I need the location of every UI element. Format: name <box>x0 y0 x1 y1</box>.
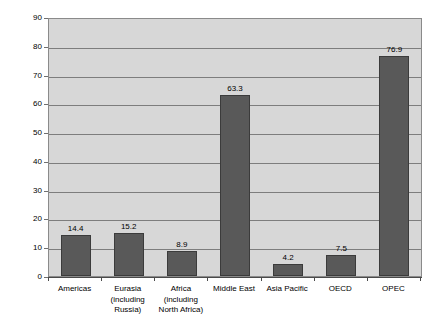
bar-value-label: 8.9 <box>176 240 187 249</box>
x-axis-label-line: Eurasia <box>101 284 154 295</box>
x-axis-label: Africa(includingNorth Africa) <box>154 284 207 316</box>
bar-slot: 15.2 <box>102 19 155 276</box>
bar[interactable] <box>61 235 91 276</box>
x-axis-line <box>48 277 422 278</box>
x-axis-label: Eurasia(includingRussia) <box>101 284 154 316</box>
x-axis-label-line: (including <box>154 295 207 306</box>
x-tick-mark <box>314 277 315 281</box>
bar-value-label: 63.3 <box>227 84 243 93</box>
x-axis-label-line: Russia) <box>101 305 154 316</box>
x-axis-label: Americas <box>48 284 101 295</box>
bar-value-label: 15.2 <box>121 222 137 231</box>
y-tick-mark-30 <box>44 191 48 192</box>
bar-slot: 63.3 <box>208 19 261 276</box>
x-tick-mark <box>101 277 102 281</box>
bar[interactable] <box>167 251 197 276</box>
y-tick-label-80: 80 <box>0 43 42 51</box>
y-tick-mark-70 <box>44 76 48 77</box>
bar-slot: 14.4 <box>49 19 102 276</box>
x-axis-label: Asia Pacific <box>261 284 314 295</box>
y-tick-label-20: 20 <box>0 215 42 223</box>
y-tick-label-30: 30 <box>0 187 42 195</box>
x-axis-label-line: Middle East <box>207 284 260 295</box>
x-tick-mark <box>48 277 49 281</box>
y-tick-mark-50 <box>44 133 48 134</box>
x-tick-mark <box>207 277 208 281</box>
y-tick-label-90: 90 <box>0 14 42 22</box>
y-tick-label-70: 70 <box>0 72 42 80</box>
bar[interactable] <box>326 255 356 276</box>
bar-value-label: 7.5 <box>336 244 347 253</box>
x-tick-mark <box>154 277 155 281</box>
bar[interactable] <box>273 264 303 276</box>
y-tick-mark-20 <box>44 219 48 220</box>
bar-chart-figure: Percentage of world reserves 01020304050… <box>0 0 437 330</box>
x-axis-label-line: Americas <box>48 284 101 295</box>
bar[interactable] <box>379 56 409 276</box>
y-tick-label-50: 50 <box>0 129 42 137</box>
x-axis-label-line: Asia Pacific <box>261 284 314 295</box>
x-axis-label-line: Africa <box>154 284 207 295</box>
x-axis-label-line: North Africa) <box>154 305 207 316</box>
bar[interactable] <box>220 95 250 276</box>
y-tick-mark-90 <box>44 18 48 19</box>
y-tick-label-60: 60 <box>0 100 42 108</box>
y-tick-mark-80 <box>44 47 48 48</box>
bar-slot: 4.2 <box>262 19 315 276</box>
bar-value-label: 76.9 <box>387 45 403 54</box>
bar-slot: 76.9 <box>368 19 421 276</box>
x-tick-mark <box>261 277 262 281</box>
bar-series: 14.415.28.963.34.27.576.9 <box>49 19 421 276</box>
bar-slot: 7.5 <box>315 19 368 276</box>
bar-value-label: 14.4 <box>68 224 84 233</box>
bar[interactable] <box>114 233 144 276</box>
x-axis-label-line: OECD <box>314 284 367 295</box>
y-tick-label-10: 10 <box>0 244 42 252</box>
x-axis-label-line: (including <box>101 295 154 306</box>
bar-slot: 8.9 <box>155 19 208 276</box>
y-tick-mark-40 <box>44 162 48 163</box>
x-tick-mark <box>420 277 421 281</box>
x-axis-label-line: OPEC <box>367 284 420 295</box>
bar-value-label: 4.2 <box>283 253 294 262</box>
x-axis-label: Middle East <box>207 284 260 295</box>
figure-caption <box>22 322 422 330</box>
y-tick-mark-60 <box>44 104 48 105</box>
x-axis-label: OECD <box>314 284 367 295</box>
y-tick-label-40: 40 <box>0 158 42 166</box>
y-tick-mark-10 <box>44 248 48 249</box>
x-axis-label: OPEC <box>367 284 420 295</box>
x-tick-mark <box>367 277 368 281</box>
y-tick-label-0: 0 <box>0 273 42 281</box>
